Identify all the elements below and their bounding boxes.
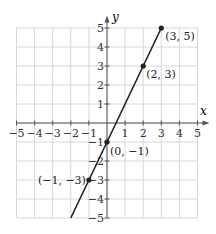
x-tick-label: −3 xyxy=(45,127,61,140)
x-tick-label: 1 xyxy=(122,127,129,140)
point-label: (3, 5) xyxy=(165,30,195,43)
data-point xyxy=(159,25,164,30)
y-axis-arrow-icon xyxy=(105,16,110,23)
y-tick-label: 5 xyxy=(97,22,104,35)
data-point xyxy=(141,63,146,68)
point-label: (0, −1) xyxy=(110,145,149,158)
y-tick-label: −1 xyxy=(88,136,104,149)
data-point xyxy=(86,177,91,182)
y-tick-label: 3 xyxy=(97,60,104,73)
x-tick-label: −5 xyxy=(8,127,24,140)
x-tick-label: −4 xyxy=(26,127,42,140)
y-axis-label: y xyxy=(112,10,119,24)
y-tick-label: −5 xyxy=(88,212,104,225)
x-axis-label: x xyxy=(200,104,207,118)
y-tick-label: −4 xyxy=(88,193,104,206)
y-tick-label: 1 xyxy=(97,98,104,111)
x-tick-label: 3 xyxy=(158,127,165,140)
x-tick-label: 4 xyxy=(176,127,183,140)
point-label: (2, 3) xyxy=(146,68,176,81)
y-tick-label: 2 xyxy=(97,79,104,92)
x-tick-label: 5 xyxy=(194,127,201,140)
data-point xyxy=(104,139,109,144)
point-label: (−1, −3) xyxy=(38,174,86,187)
x-tick-label: 2 xyxy=(140,127,147,140)
x-tick-label: −2 xyxy=(63,127,79,140)
y-tick-label: 4 xyxy=(97,41,104,54)
coordinate-plane: −5−4−3−2−11234554321−1−2−3−4−5(3, 5)(2, … xyxy=(0,0,216,234)
x-axis-arrow-icon xyxy=(203,121,210,126)
